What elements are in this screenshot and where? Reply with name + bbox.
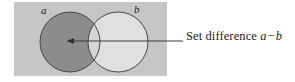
- caption-right-operand: b: [276, 29, 282, 43]
- circle-b-label: b: [134, 4, 140, 15]
- annotation-caption: Set difference a−b: [186, 30, 282, 43]
- set-difference-figure: a b Set difference a−b: [0, 0, 295, 82]
- caption-minus-operator: −: [267, 29, 276, 43]
- circle-a-label: a: [41, 5, 47, 16]
- caption-prefix-text: Set difference: [186, 29, 257, 43]
- caption-left-operand: a: [260, 29, 266, 43]
